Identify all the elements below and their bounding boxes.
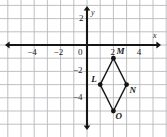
vertex-point-l <box>98 82 103 87</box>
quadrilateral-lmno <box>0 0 167 137</box>
y-tick-label-2: 2 <box>79 14 84 23</box>
segment-mn <box>113 58 126 84</box>
vertex-label-o: O <box>115 112 122 121</box>
segment-no <box>113 85 126 111</box>
vertex-label-n: N <box>130 86 137 95</box>
plot-area: −4−2242−2−40xyLMNO <box>0 0 167 137</box>
vertex-point-n <box>124 82 129 87</box>
x-tick-label-2: 2 <box>110 48 115 57</box>
coordinate-plane-figure: −4−2242−2−40xyLMNO <box>0 0 167 137</box>
vertex-label-l: L <box>91 75 97 84</box>
segment-ol <box>100 85 113 111</box>
x-axis-name: x <box>153 32 157 40</box>
origin-label: 0 <box>78 48 83 57</box>
x-tick-label--4: −4 <box>27 48 37 57</box>
y-tick-label--2: −2 <box>73 66 83 75</box>
segment-lm <box>100 58 113 84</box>
x-tick-label--2: −2 <box>54 48 64 57</box>
x-tick-label-4: 4 <box>137 48 142 57</box>
vertex-label-m: M <box>116 47 124 56</box>
y-tick-label--4: −4 <box>73 93 83 102</box>
y-axis-name: y <box>91 9 95 17</box>
